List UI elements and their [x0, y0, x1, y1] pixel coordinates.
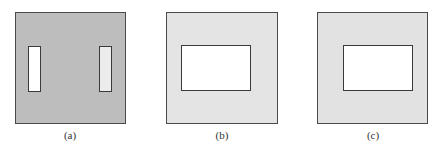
panel-b-hole — [181, 45, 251, 91]
panel-a-right-hole — [99, 46, 112, 92]
panel-b-label: (b) — [202, 129, 242, 141]
panel-c-hole — [343, 45, 413, 91]
panel-a-left-hole — [28, 46, 41, 92]
panel-c-label: (c) — [353, 129, 393, 141]
panel-a-label: (a) — [50, 129, 90, 141]
